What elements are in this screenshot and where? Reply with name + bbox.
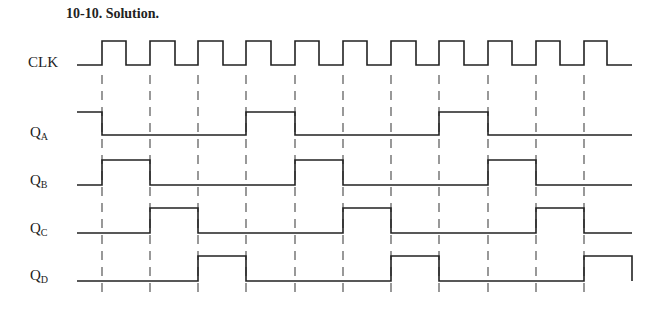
waveform-clk: [77, 41, 632, 65]
waveform-qa: [77, 112, 632, 135]
timing-diagram: [0, 0, 669, 310]
waveform-qb: [77, 160, 632, 185]
waveform-qc: [77, 208, 632, 233]
waveform-qd: [77, 256, 632, 281]
